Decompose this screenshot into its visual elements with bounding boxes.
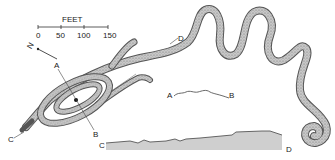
- serpent-mound: [22, 9, 327, 143]
- scale-unit-label: FEET: [62, 15, 83, 24]
- scale-tick-100: 100: [77, 31, 91, 40]
- section-label-c: C: [8, 135, 14, 144]
- north-label: N: [25, 41, 36, 51]
- serpent-mound-diagram: FEET 0 50 100 150 N: [0, 0, 335, 160]
- section-label-d: D: [178, 34, 184, 43]
- profile-ab-start-label: A: [167, 91, 173, 100]
- profile-ab-end-label: B: [229, 91, 234, 100]
- scale-tick-50: 50: [56, 31, 65, 40]
- north-arrow-icon: N: [25, 41, 57, 59]
- profile-cd-start-label: C: [99, 141, 105, 150]
- profile-cd-end-label: D: [286, 145, 292, 154]
- section-label-b: B: [93, 130, 98, 139]
- profile-c-d: C D: [99, 131, 292, 154]
- scale-tick-0: 0: [36, 31, 41, 40]
- section-label-a: A: [54, 61, 60, 70]
- profile-a-b: A B: [167, 90, 234, 100]
- scale-tick-150: 150: [103, 31, 117, 40]
- scale-bar: FEET 0 50 100 150: [36, 15, 117, 40]
